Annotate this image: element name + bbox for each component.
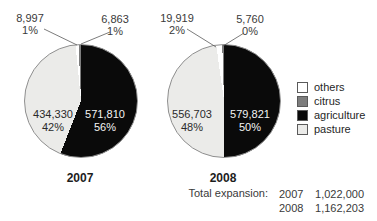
legend-swatch-citrus bbox=[297, 96, 308, 107]
callout-2007-others: 8,997 1% bbox=[8, 12, 52, 36]
total-value-2008: 1,162,203 bbox=[306, 201, 364, 215]
label-2007-pasture-value: 434,330 bbox=[33, 108, 73, 120]
total-value-2007: 1,022,000 bbox=[306, 187, 364, 201]
callout-2008-others-pct: 2% bbox=[155, 24, 199, 36]
label-2007-pasture-pct: 42% bbox=[23, 121, 83, 134]
callout-2007-others-value: 8,997 bbox=[16, 12, 44, 24]
label-2008-agriculture-pct: 50% bbox=[220, 121, 280, 134]
total-expansion-values: 1,022,000 1,162,203 bbox=[306, 187, 364, 215]
label-2007-agriculture: 571,810 56% bbox=[75, 108, 135, 134]
callout-2007-citrus-pct: 1% bbox=[93, 25, 137, 37]
pie-2008 bbox=[167, 44, 281, 158]
label-2008-agriculture-value: 579,821 bbox=[230, 108, 270, 120]
total-year-2008: 2008 bbox=[279, 201, 303, 215]
label-2008-pasture-pct: 48% bbox=[162, 121, 222, 134]
legend-swatch-pasture bbox=[297, 124, 308, 135]
total-expansion-years: 2007 2008 bbox=[279, 187, 303, 215]
callout-2008-citrus: 5,760 0% bbox=[228, 13, 272, 37]
total-year-2007: 2007 bbox=[279, 187, 303, 201]
label-2008-pasture: 556,703 48% bbox=[162, 108, 222, 134]
legend-label-others: others bbox=[314, 82, 345, 93]
legend: others citrus agriculture pasture bbox=[297, 81, 365, 137]
callout-2007-citrus-value: 6,863 bbox=[101, 13, 129, 25]
callout-2008-others-value: 19,919 bbox=[160, 12, 194, 24]
legend-label-pasture: pasture bbox=[314, 124, 351, 135]
legend-swatch-others bbox=[297, 82, 308, 93]
legend-swatch-agriculture bbox=[297, 110, 308, 121]
legend-label-agriculture: agriculture bbox=[314, 110, 365, 121]
callout-2007-others-pct: 1% bbox=[8, 24, 52, 36]
legend-item-agriculture: agriculture bbox=[297, 109, 365, 122]
pie-title-2008: 2008 bbox=[193, 171, 253, 185]
legend-label-citrus: citrus bbox=[314, 96, 340, 107]
label-2007-agriculture-pct: 56% bbox=[75, 121, 135, 134]
callout-2008-citrus-value: 5,760 bbox=[236, 13, 264, 25]
callout-2008-others: 19,919 2% bbox=[155, 12, 199, 36]
pie-title-2007: 2007 bbox=[50, 171, 110, 185]
legend-item-citrus: citrus bbox=[297, 95, 365, 108]
callout-2007-citrus: 6,863 1% bbox=[93, 13, 137, 37]
label-2007-agriculture-value: 571,810 bbox=[85, 108, 125, 120]
label-2007-pasture: 434,330 42% bbox=[23, 108, 83, 134]
pie-2007 bbox=[24, 44, 138, 158]
callout-2008-citrus-pct: 0% bbox=[228, 25, 272, 37]
legend-item-pasture: pasture bbox=[297, 123, 365, 136]
label-2008-agriculture: 579,821 50% bbox=[220, 108, 280, 134]
legend-item-others: others bbox=[297, 81, 365, 94]
total-expansion-label: Total expansion: bbox=[158, 187, 268, 199]
expansion-pie-chart-figure: 8,997 1% 6,863 1% 434,330 42% 571,810 56… bbox=[0, 0, 377, 221]
label-2008-pasture-value: 556,703 bbox=[172, 108, 212, 120]
